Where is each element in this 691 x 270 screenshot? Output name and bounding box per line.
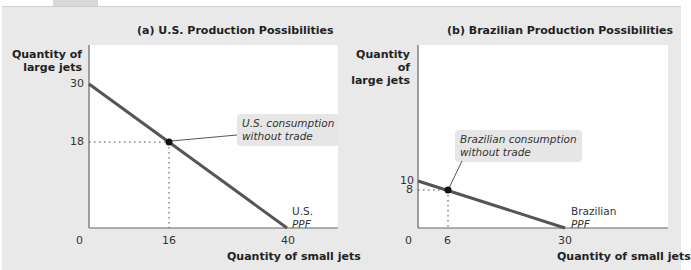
panel-a-consumption-point [166,139,173,146]
panel-b-consumption-point [445,187,452,194]
panel-a-ppf-line [89,84,287,228]
panel-b-ppf-line [418,181,565,228]
panel-b-callout-leader [449,161,462,188]
panel-a-callout-leader [171,135,237,141]
